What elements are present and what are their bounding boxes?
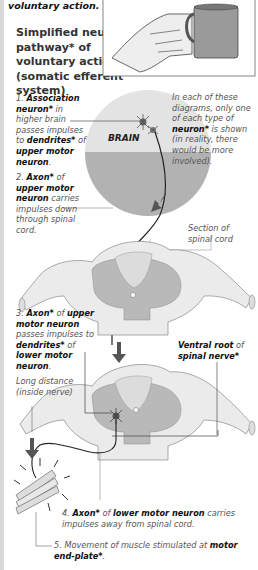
note-text: In each of these diagrams, only one of e… — [172, 92, 256, 166]
down-arrow-icon-2 — [112, 342, 126, 363]
muscle-fibres — [14, 458, 70, 514]
brain-label: BRAIN — [108, 133, 140, 144]
step-2: 2. Axon* of upper motor neuron carries i… — [16, 172, 86, 236]
hand-mug-illustration — [103, 0, 255, 76]
diagram-graphics — [0, 0, 258, 570]
step-4: 4. Axon* of lower motor neuron carries i… — [62, 508, 258, 529]
step-1: 1. Association neuron* in higher brain p… — [16, 93, 88, 167]
step-3: 3. Axon* of upper motor neuron passes im… — [16, 308, 100, 372]
long-distance-label: Long distance (inside nerve) — [16, 376, 76, 397]
section-label: Section of spinal cord — [188, 223, 254, 244]
step-5: 5. Movement of muscle stimulated at moto… — [54, 540, 254, 561]
ventral-root-label: Ventral root ofspinal nerve* — [178, 340, 258, 361]
